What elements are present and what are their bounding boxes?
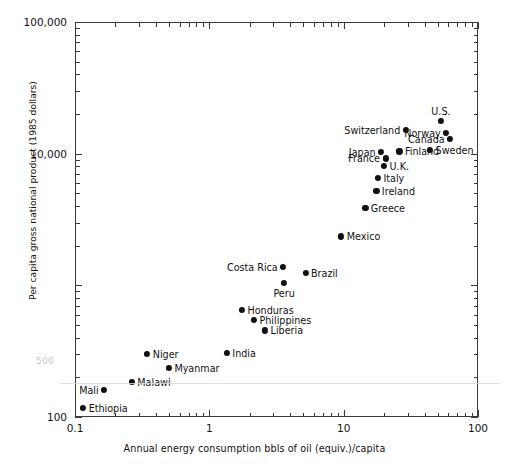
x-tick: [448, 22, 449, 27]
y-tick: [75, 35, 80, 36]
data-point-label: Greece: [371, 202, 405, 213]
x-tick: [303, 413, 304, 418]
x-tick: [438, 413, 439, 418]
x-tick: [209, 410, 210, 417]
x-tick: [408, 22, 409, 27]
y-tick: [75, 377, 80, 378]
x-tick: [344, 410, 345, 417]
x-tick: [457, 22, 458, 27]
y-tick: [471, 417, 478, 418]
data-point-label: Niger: [153, 349, 179, 360]
y-tick: [75, 417, 82, 418]
x-tick: [384, 22, 385, 27]
x-tick: [169, 413, 170, 418]
x-tick: [189, 413, 190, 418]
x-tick: [273, 22, 274, 27]
y-tick: [474, 183, 479, 184]
data-point-label: Italy: [383, 173, 404, 184]
x-tick: [203, 22, 204, 27]
data-point-label: U.K.: [390, 160, 409, 171]
chart-canvas: 0.1110100 10010,000100,000 EthiopiaMaliM…: [0, 0, 509, 464]
x-tick: [180, 22, 181, 27]
x-tick: [457, 413, 458, 418]
y-tick: [474, 377, 479, 378]
x-axis-title: Annual energy consumption bbls of oil (e…: [0, 443, 509, 454]
x-tick: [303, 22, 304, 27]
y-tick: [75, 91, 80, 92]
y-tick: [474, 338, 479, 339]
y-tick: [474, 193, 479, 194]
data-point-label: Myanmar: [174, 363, 219, 374]
y-tick: [75, 42, 80, 43]
x-tick: [323, 413, 324, 418]
y-tick: [474, 114, 479, 115]
x-tick: [209, 22, 210, 29]
x-tick: [323, 22, 324, 27]
y-tick: [75, 160, 80, 161]
x-tick: [478, 22, 479, 29]
y-tick: [474, 74, 479, 75]
y-tick: [471, 22, 478, 23]
y-tick: [474, 62, 479, 63]
x-tick: [250, 22, 251, 27]
x-tick: [156, 22, 157, 27]
y-tick: [75, 28, 80, 29]
y-tick: [474, 28, 479, 29]
x-tick: [338, 413, 339, 418]
x-tick: [290, 22, 291, 27]
y-tick: [474, 160, 479, 161]
y-tick: [75, 223, 80, 224]
data-point-label: Norway: [404, 128, 440, 139]
x-tick: [196, 22, 197, 27]
y-tick: [474, 298, 479, 299]
x-tick-label: 1: [206, 422, 213, 434]
y-tick: [75, 62, 80, 63]
x-tick: [156, 413, 157, 418]
data-point-label: Finland: [405, 146, 439, 157]
data-point-label: Ethiopia: [89, 402, 128, 413]
x-tick: [290, 413, 291, 418]
y-tick: [75, 174, 80, 175]
data-point-label: Japan: [349, 146, 376, 157]
x-tick: [203, 413, 204, 418]
data-point-label: Malawi: [137, 376, 170, 387]
x-tick-label: 10: [337, 422, 350, 434]
x-tick: [438, 22, 439, 27]
x-tick: [115, 22, 116, 27]
y-tick: [75, 354, 80, 355]
y-tick-label: 100,000: [0, 16, 67, 28]
data-point-label: U.S.: [431, 105, 450, 116]
y-tick: [75, 183, 80, 184]
x-tick: [180, 413, 181, 418]
y-tick-label: 100: [0, 411, 67, 423]
y-tick: [474, 246, 479, 247]
data-point-label: Switzerland: [344, 124, 400, 135]
data-point-label: Sweden: [436, 144, 474, 155]
y-tick: [474, 51, 479, 52]
y-tick: [75, 166, 80, 167]
y-tick: [474, 315, 479, 316]
y-tick: [75, 206, 80, 207]
x-tick: [139, 22, 140, 27]
y-tick: [474, 206, 479, 207]
y-tick: [75, 285, 82, 286]
data-point-label: Liberia: [271, 325, 304, 336]
y-tick: [75, 246, 80, 247]
x-tick: [344, 22, 345, 29]
data-point-label: Ireland: [382, 186, 415, 197]
data-point-label: Mexico: [347, 231, 381, 242]
data-point-label: Costa Rica: [227, 261, 278, 272]
x-tick: [465, 413, 466, 418]
x-tick-label: 100: [468, 422, 488, 434]
x-tick: [331, 413, 332, 418]
y-axis-title: Per capita gross national product (1985 …: [27, 81, 38, 300]
data-point-label: Brazil: [311, 267, 338, 278]
x-tick: [448, 413, 449, 418]
y-tick: [75, 306, 80, 307]
y-tick: [474, 42, 479, 43]
data-point-label: India: [232, 348, 256, 359]
y-tick: [75, 298, 80, 299]
x-tick: [139, 413, 140, 418]
x-tick: [425, 22, 426, 27]
y-tick: [474, 291, 479, 292]
